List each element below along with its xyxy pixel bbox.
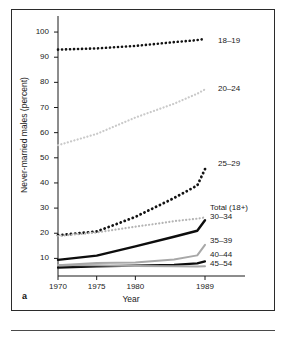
- figure-root: 102030405060708090100 1970197519801989 1…: [0, 0, 287, 338]
- series-line-18-19: [58, 39, 205, 50]
- panel-letter: a: [22, 291, 27, 301]
- y-axis-title: Never-married males (percent): [19, 70, 29, 200]
- x-tick-label: 1989: [190, 282, 220, 291]
- series-line-30-34: [58, 220, 205, 260]
- series-label: 30–34: [210, 212, 232, 221]
- series-line-25-29: [58, 169, 205, 235]
- tick-marks: [54, 32, 205, 280]
- series-label: 35–39: [210, 236, 232, 245]
- y-tick-label: 100: [25, 27, 49, 36]
- series-label: 40–44: [210, 250, 232, 259]
- x-axis-title: Year: [96, 294, 166, 304]
- x-tick-label: 1970: [43, 282, 73, 291]
- series-label: 18–19: [218, 36, 240, 45]
- series-label: Total (18+): [210, 203, 248, 212]
- x-tick-label: 1980: [120, 282, 150, 291]
- series-paths: [58, 39, 205, 268]
- y-tick-label: 10: [25, 253, 49, 262]
- series-line-20-24: [58, 89, 205, 145]
- series-label: 25–29: [218, 159, 240, 168]
- series-label: 45–54: [210, 259, 232, 268]
- x-tick-label: 1975: [82, 282, 112, 291]
- series-label: 20–24: [218, 84, 240, 93]
- y-tick-label: 30: [25, 203, 49, 212]
- bottom-divider: [11, 330, 275, 331]
- y-tick-label: 90: [25, 52, 49, 61]
- y-tick-label: 20: [25, 228, 49, 237]
